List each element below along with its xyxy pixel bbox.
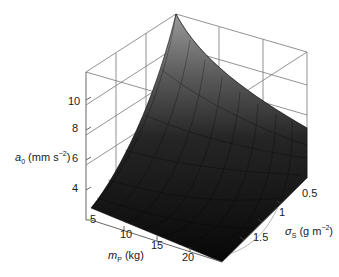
x-axis-label: mP (kg): [108, 250, 144, 263]
y-tick-0.5: 0.5: [302, 188, 317, 199]
z-exponent: −2: [59, 150, 67, 157]
y-unit: (g m: [299, 225, 321, 237]
x-tick-5: 5: [90, 214, 96, 225]
z-subscript: 0: [21, 158, 25, 165]
z-axis-label: a0 (mm s−2): [15, 150, 70, 165]
y-symbol: σ: [285, 225, 292, 237]
x-tick-10: 10: [120, 229, 132, 240]
z-close: ): [67, 151, 71, 163]
y-tick-1: 1: [279, 207, 285, 218]
z-unit: (mm s: [28, 151, 59, 163]
z-tick-10: 10: [68, 96, 80, 107]
y-axis-label: σS (g m−2): [285, 224, 333, 239]
z-tick-8: 8: [72, 123, 78, 134]
x-symbol: m: [108, 249, 117, 261]
x-tick-15: 15: [151, 240, 163, 251]
z-tick-6: 6: [72, 153, 78, 164]
x-unit: (kg): [125, 249, 144, 261]
y-close: ): [329, 225, 333, 237]
x-subscript: P: [117, 256, 122, 263]
z-tick-4: 4: [72, 183, 78, 194]
y-tick-1.5: 1.5: [253, 232, 268, 243]
y-subscript: S: [292, 232, 297, 239]
x-tick-20: 20: [182, 252, 194, 263]
surface-mesh: [91, 14, 307, 262]
